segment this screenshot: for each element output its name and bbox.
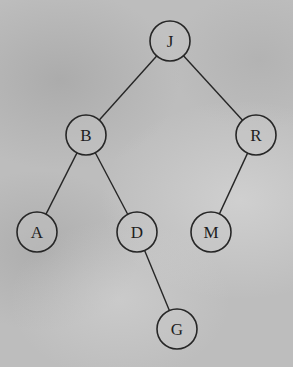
node-label: B — [80, 126, 91, 145]
edge-b-a — [46, 153, 77, 214]
edge-r-m — [219, 153, 247, 214]
node-d: D — [117, 212, 157, 252]
node-label: G — [171, 320, 183, 339]
node-b: B — [66, 115, 106, 155]
node-r: R — [236, 115, 276, 155]
nodes-group: JBRADMG — [17, 21, 276, 349]
edge-j-b — [99, 56, 156, 120]
node-label: J — [167, 32, 174, 51]
node-j: J — [150, 21, 190, 61]
edge-d-g — [145, 250, 170, 310]
node-g: G — [157, 309, 197, 349]
node-label: A — [31, 223, 44, 242]
tree-diagram: JBRADMG — [0, 0, 293, 367]
node-m: M — [191, 212, 231, 252]
tree-canvas: JBRADMG — [0, 0, 293, 367]
node-label: R — [250, 126, 262, 145]
edge-b-d — [95, 153, 127, 215]
node-label: D — [131, 223, 143, 242]
node-label: M — [203, 223, 218, 242]
edges-group — [46, 56, 248, 311]
edge-j-r — [184, 56, 243, 120]
node-a: A — [17, 212, 57, 252]
